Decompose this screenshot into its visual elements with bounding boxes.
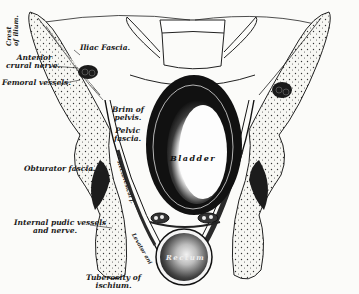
label-obturator-fascia: Obturator fascia.	[24, 165, 96, 173]
label-crest-of-ilium: Crest of ilium.	[6, 15, 20, 46]
label-internal-pudic: Internal pudic vessels and nerve.	[14, 219, 96, 235]
label-pudic-line2: and nerve.	[14, 227, 96, 235]
label-tuberosity: Tuberosity of ischium.	[86, 274, 141, 290]
label-iliac-fascia: Iliac Fascia.	[80, 44, 130, 52]
label-brim-line2: pelvis.	[112, 114, 144, 122]
label-bladder: Bladder	[170, 153, 216, 163]
left-femoral-vessels	[78, 65, 98, 79]
label-pelvic-fascia: Pelvic fascia.	[114, 127, 141, 143]
label-pelvic-line2: fascia.	[114, 135, 141, 143]
label-brim-of-pelvis: Brim of pelvis.	[112, 106, 144, 122]
bladder	[146, 75, 242, 215]
label-crest-line2: of ilium.	[13, 15, 20, 46]
label-femoral-vessels: Femoral vessels.	[2, 79, 71, 87]
seminal-vesicles	[150, 213, 220, 227]
label-tuberosity-line2: ischium.	[86, 282, 141, 290]
right-femoral-vessels	[272, 82, 292, 98]
label-rectum: Rectum	[166, 253, 205, 262]
label-crural-line2: crural nerve.	[6, 62, 52, 70]
pelvis-diagram: Crest of ilium. Iliac Fascia. Anterior c…	[0, 0, 359, 294]
label-anterior-crural-nerve: Anterior crural nerve.	[6, 54, 52, 70]
pelvis-illustration	[0, 0, 359, 294]
right-ilium	[232, 12, 330, 279]
